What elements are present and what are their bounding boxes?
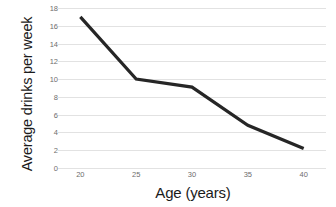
y-axis-tick-labels: 024681012141618 [36, 8, 58, 168]
line-chart: Average drinks per week 024681012141618 … [0, 0, 336, 207]
gridline [58, 168, 326, 169]
data-line-svg [58, 8, 326, 168]
y-tick-label: 12 [50, 57, 58, 66]
x-tick-label: 30 [188, 170, 196, 179]
plot-area [58, 8, 326, 168]
x-tick-label: 35 [244, 170, 252, 179]
x-axis-title: Age (years) [62, 180, 324, 204]
x-tick-label: 20 [76, 170, 84, 179]
y-tick-label: 14 [50, 39, 58, 48]
x-tick-label: 25 [132, 170, 140, 179]
y-tick-label: 18 [50, 4, 58, 13]
x-tick-label: 40 [299, 170, 307, 179]
y-tick-label: 16 [50, 21, 58, 30]
data-series-line [80, 17, 303, 149]
y-tick-label: 10 [50, 75, 58, 84]
